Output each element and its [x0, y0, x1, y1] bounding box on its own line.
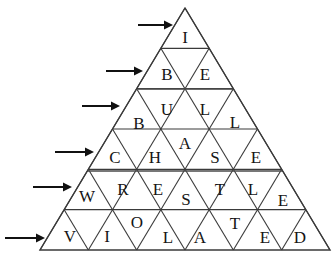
letter-cell-r5-c4: S — [181, 190, 190, 209]
puzzle-stage: arrow pointing to row 1arrow pointing to… — [0, 0, 336, 266]
letter-cell-r4-c3: A — [179, 134, 192, 153]
letter-cell-r6-c7: E — [260, 228, 270, 247]
letter-cell-r2-c2: E — [200, 65, 210, 84]
letter-cell-r4-c2: H — [149, 148, 161, 167]
letter-cell-r4-c4: S — [210, 148, 219, 167]
letter-cell-r4-c1: C — [109, 148, 120, 167]
letter-cell-r5-c1: W — [79, 187, 96, 206]
letter-cell-r3-c3: L — [200, 100, 210, 119]
triangle-puzzle-diagram: arrow pointing to row 1arrow pointing to… — [0, 0, 336, 266]
letter-cell-r3-c1: B — [133, 114, 144, 133]
letter-cell-r5-c2: R — [117, 180, 129, 199]
letter-cell-r4-c5: E — [251, 148, 261, 167]
letter-cell-r6-c6: T — [230, 214, 241, 233]
letter-cell-r6-c2: I — [104, 227, 110, 246]
letter-cell-r6-c3: O — [131, 213, 143, 232]
row-3-arrow: arrow pointing to row 3 — [82, 101, 120, 110]
letter-cell-r5-c3: E — [153, 180, 163, 199]
letter-cell-r6-c8: D — [294, 228, 306, 247]
row-1-arrow: arrow pointing to row 1 — [138, 20, 173, 29]
letter-cell-r3-c2: U — [161, 100, 173, 119]
letter-cell-r3-c4: L — [230, 113, 240, 132]
row-2-arrow: arrow pointing to row 2 — [106, 66, 143, 75]
letter-cell-r6-c1: V — [64, 227, 77, 246]
row-5-arrow: arrow pointing to row 5 — [33, 182, 72, 191]
letter-cell-r2-c1: B — [161, 65, 172, 84]
letter-cell-r1-c1: I — [182, 28, 188, 47]
letter-cell-r5-c6: L — [248, 180, 258, 199]
letter-cell-r6-c5: A — [194, 228, 207, 247]
letter-cell-r6-c4: L — [163, 228, 173, 247]
row-6-arrow: arrow pointing to row 6 — [5, 233, 45, 242]
letter-cell-r5-c5: T — [215, 180, 226, 199]
row-4-arrow: arrow pointing to row 4 — [55, 147, 94, 156]
letter-cells: IBEBULLCHASEWRESTLEVIOLATED — [64, 28, 306, 247]
letter-cell-r5-c7: E — [278, 191, 288, 210]
